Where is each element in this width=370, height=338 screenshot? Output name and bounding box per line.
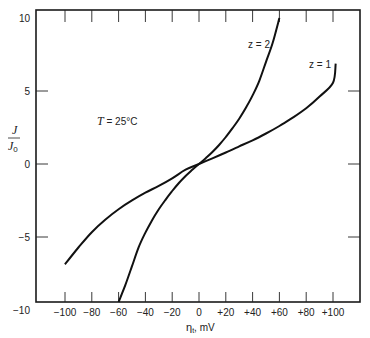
x-tick-label: −40 (137, 307, 154, 318)
series-lines (65, 18, 336, 302)
plot-frame (36, 10, 360, 302)
chart: −100−80−60−40−200+20+40+60+80+100 −10−50… (0, 0, 370, 338)
y-tick-label: 5 (24, 86, 30, 97)
x-tick-label: −60 (110, 307, 127, 318)
y-label-numerator: J (12, 123, 18, 137)
y-axis-ticks: −10−50510 (13, 13, 360, 316)
series-line-z2 (119, 18, 280, 302)
x-label: ηt, mV (186, 321, 215, 334)
series-label-z1: z = 1 (309, 59, 331, 70)
temperature-annotation: T = 25°C (97, 114, 137, 128)
x-tick-label: −80 (83, 307, 100, 318)
x-tick-label: −100 (54, 307, 77, 318)
x-tick-label: +100 (322, 307, 345, 318)
temperature-value: = 25°C (104, 116, 138, 127)
x-tick-label: +60 (271, 307, 288, 318)
x-tick-label: +20 (217, 307, 234, 318)
x-tick-label: +80 (298, 307, 315, 318)
x-axis-label: ηt, mV (186, 321, 215, 334)
x-tick-label: −20 (164, 307, 181, 318)
y-tick-label: −5 (19, 232, 31, 243)
x-tick-label: 0 (196, 307, 202, 318)
series-label-z2: z = 2 (248, 39, 270, 50)
y-tick-label: −10 (13, 305, 30, 316)
y-label-denominator: J0 (8, 139, 18, 154)
y-tick-label: 10 (19, 13, 31, 24)
x-tick-label: +40 (244, 307, 261, 318)
y-axis-label: J J0 (8, 123, 20, 154)
y-tick-label: 0 (24, 159, 30, 170)
